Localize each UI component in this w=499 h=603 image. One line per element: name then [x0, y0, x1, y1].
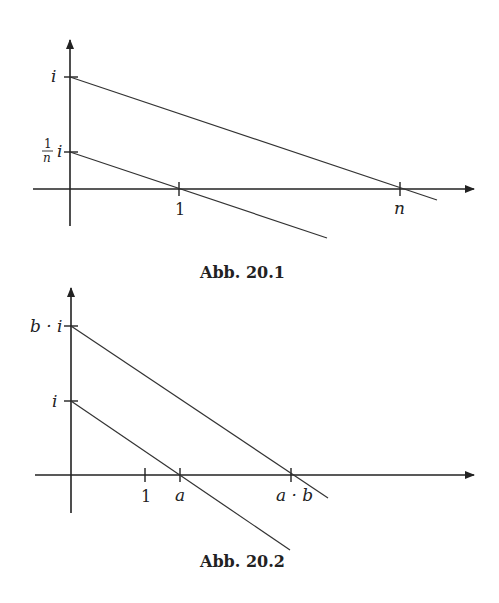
figure-20-1: i 1 n i 1 n Abb. 20.1 — [33, 40, 474, 282]
upper-line — [71, 326, 328, 498]
diagram-canvas: i 1 n i 1 n Abb. 20.1 b · i i 1 a a · b … — [0, 0, 499, 603]
caption-20-1: Abb. 20.1 — [199, 263, 285, 282]
lower-line — [70, 152, 327, 238]
label-1: 1 — [175, 200, 185, 219]
upper-line — [70, 77, 437, 200]
label-b-i: b · i — [30, 316, 63, 336]
label-frac-i: i — [57, 141, 62, 161]
label-a: a — [175, 485, 185, 505]
label-i: i — [52, 391, 57, 411]
label-n: n — [394, 198, 405, 218]
label-i: i — [51, 66, 56, 86]
figure-20-2: b · i i 1 a a · b Abb. 20.2 — [30, 288, 474, 571]
label-frac-den: n — [43, 151, 51, 165]
label-frac-num: 1 — [44, 137, 52, 151]
label-a-b: a · b — [276, 485, 313, 505]
caption-20-2: Abb. 20.2 — [199, 552, 285, 571]
label-1: 1 — [141, 487, 151, 506]
